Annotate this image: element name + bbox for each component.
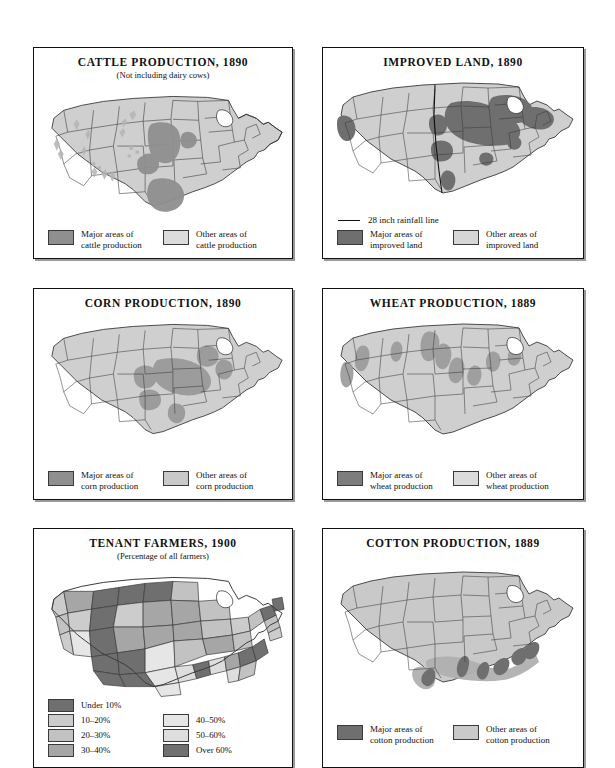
panel-subtitle: (Percentage of all farmers) xyxy=(34,551,292,561)
panel-title: IMPROVED LAND, 1890 xyxy=(323,56,583,69)
legend-item-50-60: 50–60% xyxy=(163,729,278,742)
legend-swatch xyxy=(48,714,74,727)
map-panel-cotton-production: COTTON PRODUCTION, 1889 xyxy=(322,528,584,768)
legend-label-line1: Major areas of xyxy=(81,229,142,240)
legend-item-other: Other areas of corn production xyxy=(163,470,278,491)
legend-item-major: Major areas of improved land xyxy=(337,229,453,250)
legend-label-line1: Major areas of xyxy=(370,724,434,735)
legend-spacer xyxy=(163,699,278,714)
panel-title: CORN PRODUCTION, 1890 xyxy=(34,297,292,310)
legend-swatch xyxy=(163,714,189,727)
legend-item-major: Major areas of corn production xyxy=(48,470,163,491)
us-map-tenant-farmers xyxy=(34,565,292,705)
legend-item-other: Other areas of cotton production xyxy=(453,724,569,745)
legend-item-major: Major areas of cotton production xyxy=(337,724,453,745)
legend-item-rainfall-line: 28 inch rainfall line xyxy=(323,215,583,229)
legend-item-10-20: 10–20% xyxy=(48,714,163,727)
us-map-wheat xyxy=(323,311,583,453)
panel-title: CATTLE PRODUCTION, 1890 xyxy=(34,56,292,69)
legend-tenant-farmers: Under 10% 10–20% 40–50% xyxy=(34,699,292,767)
legend-swatch xyxy=(48,729,74,742)
legend-label-line1: Other areas of xyxy=(486,470,549,481)
legend-label: Under 10% xyxy=(81,700,121,711)
legend-item-other: Other areas of improved land xyxy=(453,229,569,250)
legend-label-line2: corn production xyxy=(196,481,253,492)
legend-label-line2: improved land xyxy=(370,240,422,251)
legend-swatch-other xyxy=(163,230,189,245)
legend-label-line2: cotton production xyxy=(370,735,434,746)
legend-swatch-major xyxy=(337,471,363,486)
legend-label-line1: Other areas of xyxy=(196,470,253,481)
legend-swatch-major xyxy=(337,230,363,245)
legend-label-line1: Other areas of xyxy=(196,229,257,240)
us-map-cotton xyxy=(323,555,583,705)
legend-label-line2: corn production xyxy=(81,481,138,492)
legend-label-line2: wheat production xyxy=(486,481,549,492)
us-map-improved-land xyxy=(323,70,583,212)
legend-label: 40–50% xyxy=(196,715,225,726)
legend-label: 30–40% xyxy=(81,745,110,756)
map-panel-tenant-farmers: TENANT FARMERS, 1900 (Percentage of all … xyxy=(33,528,293,768)
legend-swatch-major xyxy=(48,471,74,486)
legend-item-over-60: Over 60% xyxy=(163,744,278,757)
legend-label-line1: Other areas of xyxy=(486,229,538,240)
legend-label-line1: Major areas of xyxy=(370,229,422,240)
legend-item-other: Other areas of wheat production xyxy=(453,470,569,491)
maps-page: CATTLE PRODUCTION, 1890 (Not including d… xyxy=(0,0,615,768)
rainfall-line-icon xyxy=(338,220,360,221)
legend-swatch-other xyxy=(163,471,189,486)
legend-item-40-50: 40–50% xyxy=(163,714,278,727)
legend-label-line2: cotton production xyxy=(486,735,550,746)
us-map-cattle xyxy=(34,84,292,224)
legend-item-20-30: 20–30% xyxy=(48,729,163,742)
legend-swatch xyxy=(163,744,189,757)
legend-swatch-other xyxy=(453,230,479,245)
legend-item-major: Major areas of cattle production xyxy=(48,229,163,250)
map-panel-wheat-production: WHEAT PRODUCTION, 1889 xyxy=(322,288,584,500)
legend-item-other: Other areas of cattle production xyxy=(163,229,278,250)
legend-label: 50–60% xyxy=(196,730,225,741)
legend-corn: Major areas of corn production Other are… xyxy=(34,470,292,499)
legend-cattle: Major areas of cattle production Other a… xyxy=(34,229,292,258)
legend-swatch-major xyxy=(337,725,363,740)
panel-subtitle: (Not including dairy cows) xyxy=(34,70,292,80)
legend-swatch-other xyxy=(453,725,479,740)
legend-swatch-other xyxy=(453,471,479,486)
panel-title: TENANT FARMERS, 1900 xyxy=(34,537,292,550)
legend-swatch xyxy=(48,744,74,757)
legend-label-line2: cattle production xyxy=(81,240,142,251)
legend-item-major: Major areas of wheat production xyxy=(337,470,453,491)
legend-wheat: Major areas of wheat production Other ar… xyxy=(323,470,583,499)
panel-title: COTTON PRODUCTION, 1889 xyxy=(323,537,583,550)
panel-title: WHEAT PRODUCTION, 1889 xyxy=(323,297,583,310)
legend-label-line2: wheat production xyxy=(370,481,433,492)
legend-swatch xyxy=(163,729,189,742)
map-panel-improved-land: IMPROVED LAND, 1890 xyxy=(322,47,584,259)
legend-improved-land: 28 inch rainfall line Major areas of imp… xyxy=(323,215,583,258)
legend-swatch xyxy=(48,699,74,712)
legend-label-line1: Major areas of xyxy=(81,470,138,481)
legend-item-30-40: 30–40% xyxy=(48,744,163,757)
legend-label-line2: improved land xyxy=(486,240,538,251)
legend-cotton: Major areas of cotton production Other a… xyxy=(323,724,583,767)
legend-label-line1: Other areas of xyxy=(486,724,550,735)
legend-label: 10–20% xyxy=(81,715,110,726)
legend-label: Over 60% xyxy=(196,745,232,756)
us-map-corn xyxy=(34,311,292,453)
map-panel-corn-production: CORN PRODUCTION, 1890 xyxy=(33,288,293,500)
rainfall-line-label: 28 inch rainfall line xyxy=(368,215,439,225)
legend-label-line1: Major areas of xyxy=(370,470,433,481)
legend-item-under-10: Under 10% xyxy=(48,699,163,712)
map-panel-cattle-production: CATTLE PRODUCTION, 1890 (Not including d… xyxy=(33,47,293,259)
legend-label-line2: cattle production xyxy=(196,240,257,251)
legend-label: 20–30% xyxy=(81,730,110,741)
legend-swatch-major xyxy=(48,230,74,245)
